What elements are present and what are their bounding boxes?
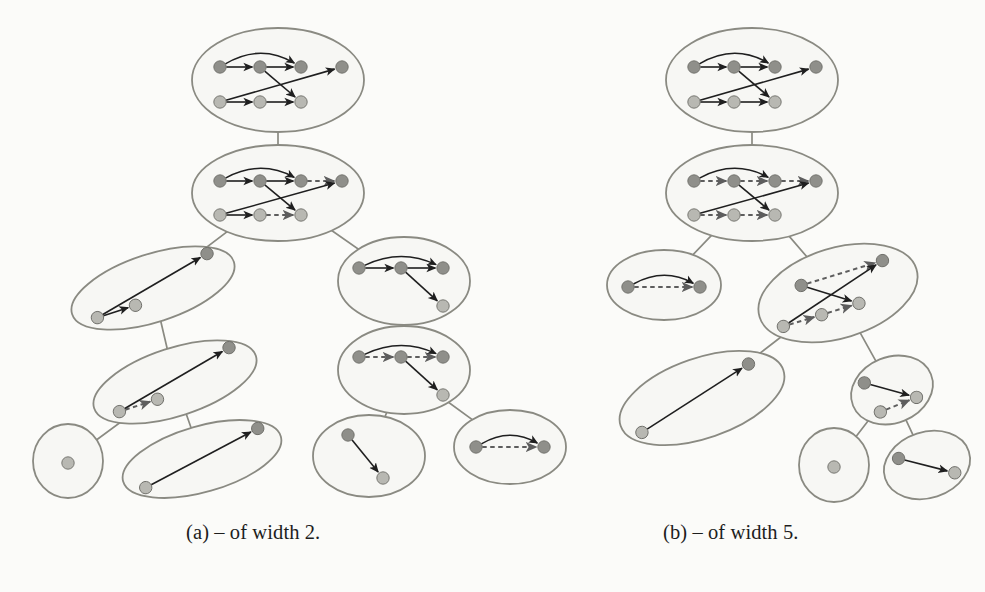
bag-ellipse[interactable] <box>192 145 364 241</box>
graph-vertex[interactable] <box>336 175 348 187</box>
figure-root: (a) – of width 2. (b) – of width 5. <box>0 0 985 592</box>
bag-ellipse[interactable] <box>799 428 869 502</box>
graph-vertex[interactable] <box>342 429 354 441</box>
bags-layer <box>33 28 979 513</box>
graph-vertex[interactable] <box>538 441 550 453</box>
graph-vertex[interactable] <box>437 389 449 401</box>
bag-connector <box>160 317 168 353</box>
bag-ellipse[interactable] <box>62 229 245 346</box>
graph-vertex[interactable] <box>295 96 307 108</box>
bag-ellipse[interactable] <box>607 250 721 320</box>
graph-vertex[interactable] <box>769 96 781 108</box>
bag-outline <box>608 332 797 464</box>
graph-vertex[interactable] <box>769 209 781 221</box>
bag-outline <box>666 28 838 132</box>
bag-outline <box>338 326 470 414</box>
bag-ellipse[interactable] <box>841 344 944 437</box>
graph-vertex[interactable] <box>769 175 781 187</box>
bag-ellipse[interactable] <box>666 145 838 241</box>
bag-outline <box>666 145 838 241</box>
graph-vertex[interactable] <box>377 472 389 484</box>
graph-vertex[interactable] <box>353 262 365 274</box>
bag-ellipse[interactable] <box>313 415 425 497</box>
graph-vertex[interactable] <box>254 61 266 73</box>
bag-ellipse[interactable] <box>192 28 364 132</box>
graph-vertex[interactable] <box>688 96 700 108</box>
graph-vertex[interactable] <box>622 281 634 293</box>
graph-vertex[interactable] <box>688 175 700 187</box>
graph-vertex[interactable] <box>214 175 226 187</box>
graph-vertex[interactable] <box>395 262 407 274</box>
graph-vertex[interactable] <box>437 262 449 274</box>
graph-vertex[interactable] <box>214 61 226 73</box>
bag-outline <box>62 229 245 346</box>
graph-vertex[interactable] <box>437 300 449 312</box>
graph-vertex[interactable] <box>214 209 226 221</box>
bag-outline <box>746 226 929 360</box>
panel-panel-b <box>607 28 979 510</box>
bag-ellipse[interactable] <box>608 332 797 464</box>
graph-vertex[interactable] <box>336 61 348 73</box>
bag-outline <box>192 145 364 241</box>
graph-vertex[interactable] <box>295 209 307 221</box>
bag-outline <box>313 415 425 497</box>
bag-ellipse[interactable] <box>666 28 838 132</box>
diagram-canvas <box>0 0 985 592</box>
bag-ellipse[interactable] <box>875 420 979 510</box>
graph-vertex[interactable] <box>810 175 822 187</box>
graph-vertex[interactable] <box>728 61 740 73</box>
bag-outline <box>192 28 364 132</box>
graph-vertex[interactable] <box>295 61 307 73</box>
bag-ellipse[interactable] <box>454 410 566 484</box>
bag-ellipse[interactable] <box>33 424 103 498</box>
graph-vertex[interactable] <box>769 61 781 73</box>
bag-ellipse[interactable] <box>338 326 470 414</box>
graph-vertex[interactable] <box>728 209 740 221</box>
graph-vertex[interactable] <box>470 441 482 453</box>
graph-vertex[interactable] <box>694 281 706 293</box>
graph-vertex[interactable] <box>254 209 266 221</box>
bag-ellipse[interactable] <box>338 237 470 325</box>
panel-panel-a <box>33 28 566 513</box>
graph-vertex[interactable] <box>728 175 740 187</box>
graph-vertex[interactable] <box>828 461 840 473</box>
bag-outline <box>338 237 470 325</box>
graph-vertex[interactable] <box>688 209 700 221</box>
graph-vertex[interactable] <box>395 351 407 363</box>
graph-vertex[interactable] <box>688 61 700 73</box>
graph-vertex[interactable] <box>62 457 74 469</box>
graph-vertex[interactable] <box>437 351 449 363</box>
graph-vertex[interactable] <box>214 96 226 108</box>
graph-vertex[interactable] <box>295 175 307 187</box>
graph-vertex[interactable] <box>353 351 365 363</box>
graph-vertex[interactable] <box>254 96 266 108</box>
graph-vertex[interactable] <box>810 61 822 73</box>
bag-ellipse[interactable] <box>746 226 929 360</box>
graph-vertex[interactable] <box>728 96 740 108</box>
graph-vertex[interactable] <box>254 175 266 187</box>
